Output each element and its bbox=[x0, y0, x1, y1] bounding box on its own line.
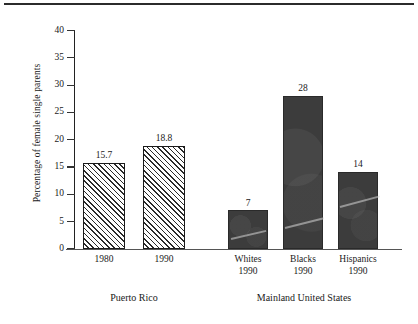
scan-streak bbox=[285, 217, 324, 228]
bar-puerto-rico-1990 bbox=[143, 146, 185, 249]
bar-mainland-whites-1990 bbox=[228, 210, 268, 249]
category-line-2: 1990 bbox=[326, 266, 390, 278]
bar-value-mainland-whites-1990: 7 bbox=[228, 198, 268, 208]
bar-value-mainland-blacks-1990: 28 bbox=[283, 83, 323, 93]
group-label-mainland-united-states: Mainland United States bbox=[218, 292, 390, 303]
category-line-2: 1990 bbox=[273, 266, 333, 278]
category-line-1: 1980 bbox=[95, 254, 114, 264]
y-tick-40 bbox=[67, 30, 75, 31]
category-line-1: Blacks bbox=[290, 254, 316, 264]
category-label-mainland-blacks: Blacks 1990 bbox=[273, 254, 333, 277]
scan-streak bbox=[231, 230, 266, 240]
y-tick-label-40: 40 bbox=[42, 26, 64, 36]
y-tick-5 bbox=[67, 221, 75, 222]
y-tick-0 bbox=[67, 248, 75, 249]
y-tick-10 bbox=[67, 194, 75, 195]
bar-value-mainland-hispanics-1990: 14 bbox=[338, 159, 378, 169]
y-tick-25 bbox=[67, 112, 75, 113]
category-line-1: 1990 bbox=[155, 254, 174, 264]
category-line-1: Hispanics bbox=[339, 254, 376, 264]
scan-streak bbox=[340, 195, 380, 208]
y-tick-label-35: 35 bbox=[42, 53, 64, 63]
bar-chart: Percentage of female single parents 40 3… bbox=[0, 0, 418, 324]
y-tick-35 bbox=[67, 57, 75, 58]
y-axis-title: Percentage of female single parents bbox=[32, 33, 42, 233]
y-tick-15 bbox=[67, 166, 75, 167]
y-tick-label-0: 0 bbox=[42, 244, 64, 254]
category-line-1: Whites bbox=[235, 254, 262, 264]
category-label-mainland-hispanics: Hispanics 1990 bbox=[326, 254, 390, 277]
bar-value-puerto-rico-1980: 15.7 bbox=[83, 150, 125, 160]
category-label-puerto-rico-1990: 1990 bbox=[134, 254, 194, 266]
bar-puerto-rico-1980 bbox=[83, 163, 125, 249]
y-tick-label-10: 10 bbox=[42, 189, 64, 199]
scan-edge-line bbox=[4, 3, 414, 5]
category-line-2: 1990 bbox=[218, 266, 278, 278]
bar-mainland-hispanics-1990 bbox=[338, 172, 378, 249]
y-tick-30 bbox=[67, 85, 75, 86]
y-tick-label-20: 20 bbox=[42, 135, 64, 145]
category-label-mainland-whites: Whites 1990 bbox=[218, 254, 278, 277]
y-tick-label-30: 30 bbox=[42, 80, 64, 90]
bar-value-puerto-rico-1990: 18.8 bbox=[143, 133, 185, 143]
bar-mainland-blacks-1990 bbox=[283, 96, 323, 249]
y-tick-label-15: 15 bbox=[42, 162, 64, 172]
y-tick-label-5: 5 bbox=[42, 217, 64, 227]
y-tick-label-25: 25 bbox=[42, 107, 64, 117]
y-tick-20 bbox=[67, 139, 75, 140]
category-label-puerto-rico-1980: 1980 bbox=[74, 254, 134, 266]
group-label-puerto-rico: Puerto Rico bbox=[74, 292, 194, 303]
